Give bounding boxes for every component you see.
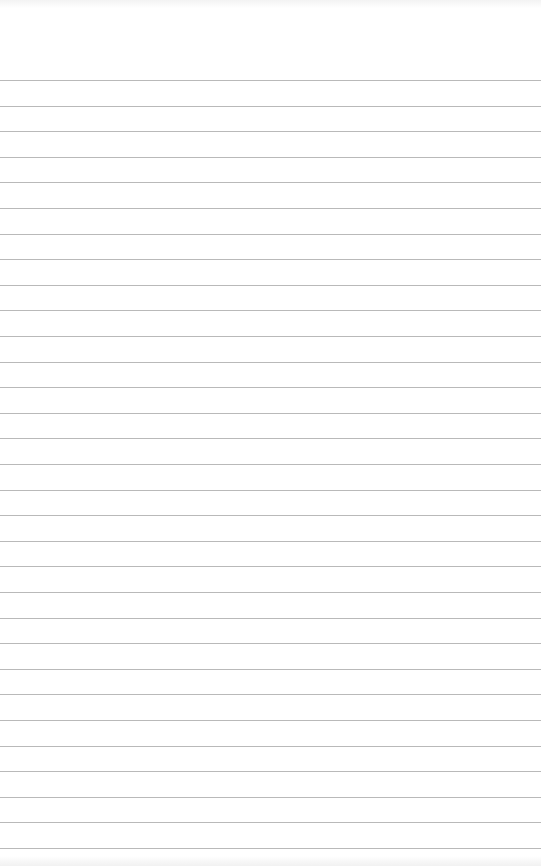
ruled-line [0, 618, 541, 619]
bottom-edge-shadow [0, 856, 541, 866]
ruled-line [0, 541, 541, 542]
ruled-line [0, 669, 541, 670]
ruled-line [0, 336, 541, 337]
ruled-line [0, 387, 541, 388]
ruled-line [0, 848, 541, 849]
ruled-line [0, 720, 541, 721]
ruled-line [0, 234, 541, 235]
lined-paper-sheet [0, 0, 541, 866]
ruled-line [0, 797, 541, 798]
ruled-line [0, 771, 541, 772]
ruled-line [0, 464, 541, 465]
ruled-line [0, 106, 541, 107]
ruled-line [0, 438, 541, 439]
ruled-line [0, 310, 541, 311]
ruled-line [0, 566, 541, 567]
ruled-line [0, 694, 541, 695]
ruled-line [0, 182, 541, 183]
ruled-line [0, 413, 541, 414]
ruled-line [0, 259, 541, 260]
ruled-line [0, 822, 541, 823]
ruled-line [0, 362, 541, 363]
ruled-line [0, 131, 541, 132]
ruled-line [0, 157, 541, 158]
ruled-line [0, 285, 541, 286]
ruled-line [0, 490, 541, 491]
ruled-line [0, 746, 541, 747]
ruled-line [0, 592, 541, 593]
ruled-line [0, 643, 541, 644]
ruled-line [0, 80, 541, 81]
ruled-line [0, 208, 541, 209]
ruled-line [0, 515, 541, 516]
